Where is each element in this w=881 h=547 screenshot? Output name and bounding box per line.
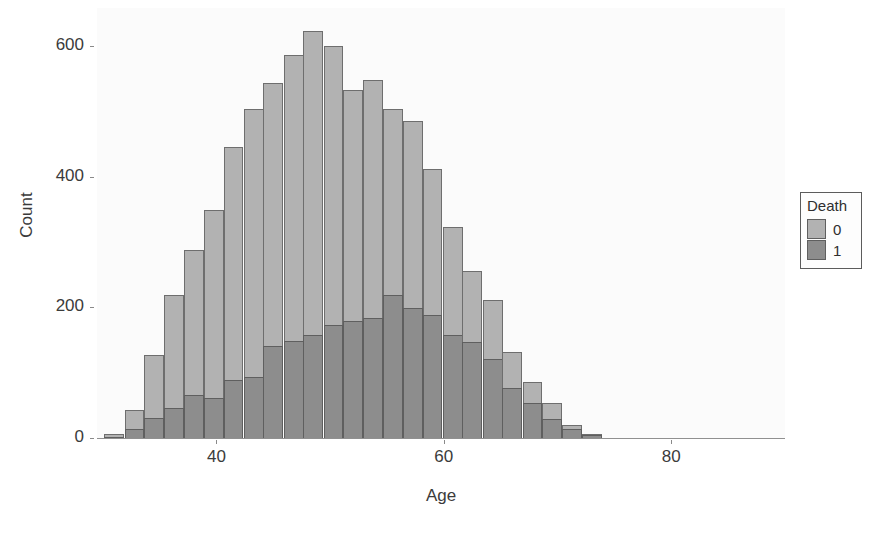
y-axis-tick-label: 400 — [20, 166, 84, 186]
x-axis-tick-label: 40 — [186, 447, 246, 467]
histogram-bin — [144, 8, 164, 439]
histogram-bin — [462, 8, 482, 439]
legend-swatch-icon — [807, 240, 826, 260]
x-axis-tick — [444, 440, 445, 444]
bar-segment-death-1 — [224, 380, 244, 439]
legend-entries: 01 — [807, 219, 855, 261]
bar-segment-death-1 — [462, 342, 482, 439]
bar-segment-death-1 — [542, 419, 562, 439]
legend: Death 01 — [800, 192, 862, 269]
legend-entry-label: 1 — [833, 243, 841, 258]
histogram-bin — [523, 8, 543, 439]
histogram-bin — [562, 8, 582, 439]
bar-segment-death-1 — [363, 318, 383, 439]
histogram-bin — [403, 8, 423, 439]
histogram-bin — [483, 8, 503, 439]
histogram-bin — [224, 8, 244, 439]
bar-segment-death-1 — [303, 335, 323, 439]
y-axis-tick-label: 0 — [20, 427, 84, 447]
histogram-bin — [582, 8, 602, 439]
bar-segment-death-1 — [383, 295, 403, 439]
y-axis-tick-label: 600 — [20, 35, 84, 55]
y-axis-tick-label: 200 — [20, 296, 84, 316]
bar-segment-death-1 — [263, 346, 283, 439]
bar-segment-death-1 — [423, 315, 443, 439]
histogram-bin — [343, 8, 363, 439]
histogram-bin — [125, 8, 145, 439]
bar-segment-death-1 — [324, 325, 344, 439]
y-axis-tick — [90, 307, 94, 308]
bar-segment-death-1 — [184, 395, 204, 439]
bar-segment-death-1 — [502, 388, 522, 439]
bar-segment-death-1 — [403, 308, 423, 439]
legend-entry: 0 — [807, 219, 855, 240]
legend-entry: 1 — [807, 240, 855, 261]
histogram-bin — [423, 8, 443, 439]
legend-title: Death — [807, 198, 855, 214]
histogram-bin — [383, 8, 403, 439]
x-axis-line — [97, 438, 785, 439]
bar-segment-death-1 — [443, 335, 463, 439]
histogram-bin — [204, 8, 224, 439]
x-axis-tick — [671, 440, 672, 444]
histogram-bin — [284, 8, 304, 439]
chart-page: Age Count Death 01 4060800200400600 — [0, 0, 881, 547]
histogram-bin — [184, 8, 204, 439]
histogram-bin — [363, 8, 383, 439]
legend-swatch-icon — [807, 219, 826, 239]
legend-entry-label: 0 — [833, 222, 841, 237]
histogram-bin — [104, 8, 124, 439]
bar-segment-death-1 — [164, 408, 184, 439]
plot-panel — [97, 8, 785, 439]
y-axis-tick — [90, 46, 94, 47]
bar-segment-death-1 — [144, 418, 164, 439]
bar-segment-death-1 — [343, 321, 363, 439]
histogram-bin — [164, 8, 184, 439]
histogram-bin — [542, 8, 562, 439]
x-axis-title: Age — [97, 486, 785, 506]
y-axis-tick — [90, 438, 94, 439]
histogram-bars — [97, 8, 785, 439]
y-axis-tick — [90, 177, 94, 178]
x-axis-tick — [216, 440, 217, 444]
bar-segment-death-1 — [483, 359, 503, 439]
histogram-bin — [303, 8, 323, 439]
bar-segment-death-1 — [244, 377, 264, 439]
x-axis-tick-label: 80 — [641, 447, 701, 467]
histogram-bin — [324, 8, 344, 439]
bar-segment-death-1 — [284, 341, 304, 439]
bar-segment-death-1 — [523, 403, 543, 439]
histogram-bin — [443, 8, 463, 439]
x-axis-tick-label: 60 — [414, 447, 474, 467]
histogram-bin — [263, 8, 283, 439]
histogram-bin — [244, 8, 264, 439]
histogram-bin — [502, 8, 522, 439]
bar-segment-death-1 — [204, 398, 224, 439]
